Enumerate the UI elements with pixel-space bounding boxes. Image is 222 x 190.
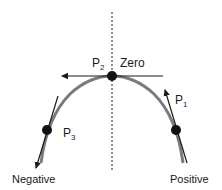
label-positive: Positive [170, 173, 209, 185]
label-zero: Zero [120, 56, 145, 70]
label-negative: Negative [12, 173, 55, 185]
point-p2 [107, 71, 117, 81]
label-p3: P3 [63, 126, 76, 142]
diagram: P2 Zero P1 P3 Negative Positive [0, 0, 222, 190]
label-p2: P2 [92, 56, 105, 72]
diagram-canvas: P2 Zero P1 P3 Negative Positive [0, 0, 222, 190]
label-p1: P1 [175, 93, 188, 109]
point-p3 [42, 125, 52, 135]
point-p1 [171, 125, 181, 135]
